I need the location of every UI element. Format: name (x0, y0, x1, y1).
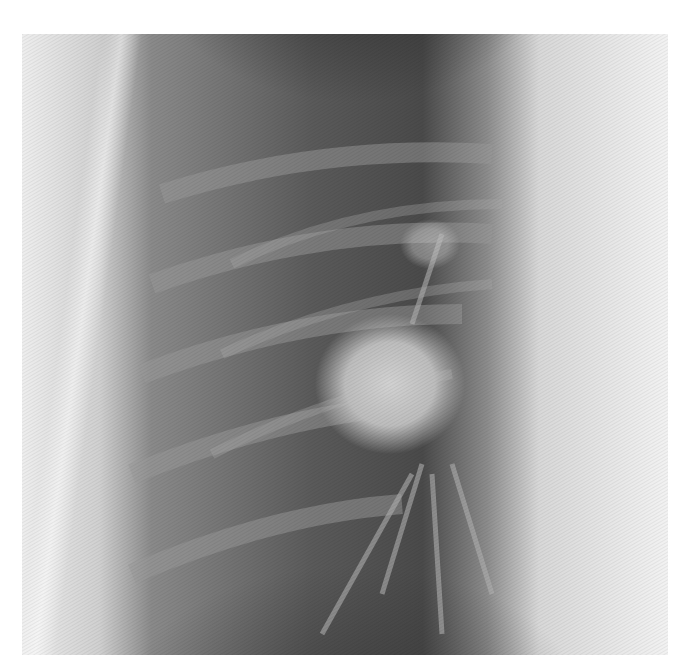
radiograph-graphic (22, 34, 668, 655)
xray-image: Chest X-ray detail with rounded mass (22, 34, 668, 655)
